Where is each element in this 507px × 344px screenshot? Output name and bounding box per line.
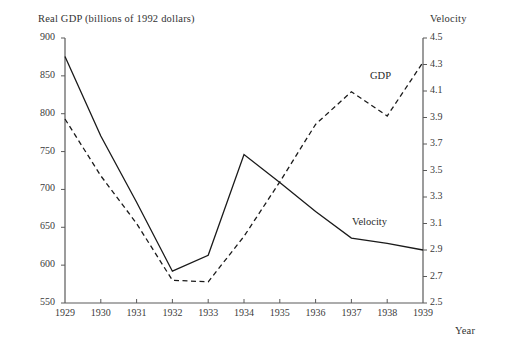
left-tick-label-700: 700 (23, 182, 55, 193)
x-tick-label-1938: 1938 (367, 307, 407, 318)
left-tick-label-650: 650 (23, 220, 55, 231)
right-tick-label-4.1: 4.1 (430, 84, 462, 95)
left-tick-label-550: 550 (23, 296, 55, 307)
x-tick-label-1931: 1931 (117, 307, 157, 318)
right-tick-label-2.5: 2.5 (430, 296, 462, 307)
right-tick-label-3.1: 3.1 (430, 217, 462, 228)
x-tick-label-1939: 1939 (403, 307, 443, 318)
right-tick-label-2.7: 2.7 (430, 270, 462, 281)
right-tick-label-3.9: 3.9 (430, 111, 462, 122)
left-tick-label-750: 750 (23, 145, 55, 156)
x-tick-label-1937: 1937 (331, 307, 371, 318)
left-tick-label-850: 850 (23, 69, 55, 80)
series-line-gdp (65, 62, 423, 282)
x-tick-label-1936: 1936 (296, 307, 336, 318)
chart-container: Real GDP (billions of 1992 dollars) Velo… (0, 0, 507, 344)
left-tick-label-600: 600 (23, 258, 55, 269)
x-tick-label-1929: 1929 (45, 307, 85, 318)
series-line-velocity (65, 57, 423, 272)
x-tick-label-1935: 1935 (260, 307, 300, 318)
x-tick-label-1930: 1930 (81, 307, 121, 318)
x-tick-label-1933: 1933 (188, 307, 228, 318)
left-tick-label-900: 900 (23, 31, 55, 42)
right-tick-label-2.9: 2.9 (430, 243, 462, 254)
right-tick-label-3.7: 3.7 (430, 137, 462, 148)
right-tick-label-4.5: 4.5 (430, 31, 462, 42)
right-tick-label-3.3: 3.3 (430, 190, 462, 201)
left-tick-label-800: 800 (23, 107, 55, 118)
x-tick-label-1932: 1932 (152, 307, 192, 318)
right-tick-label-4.3: 4.3 (430, 58, 462, 69)
right-tick-label-3.5: 3.5 (430, 164, 462, 175)
x-tick-label-1934: 1934 (224, 307, 264, 318)
